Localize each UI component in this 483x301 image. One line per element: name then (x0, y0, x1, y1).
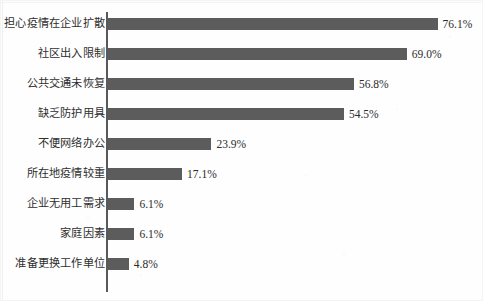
bar-value-label: 23.9% (216, 129, 246, 159)
bar-shape (108, 258, 129, 270)
bar-shape (108, 198, 134, 210)
bar-row: 不便网络办公 23.9% (1, 129, 483, 159)
bar-value-label: 56.8% (359, 69, 389, 99)
bar-value-label: 6.1% (139, 219, 163, 249)
bar-shape (108, 18, 438, 30)
bar-row: 企业无用工需求 6.1% (1, 189, 483, 219)
bar-row: 准备更换工作单位 4.8% (1, 249, 483, 279)
bar-category-label: 家庭因素 (60, 219, 105, 249)
bar-shape (108, 228, 134, 240)
bar-category-label: 担心疫情在企业扩散 (4, 9, 105, 39)
bar-shape (108, 48, 407, 60)
bar-row: 所在地疫情较重 17.1% (1, 159, 483, 189)
bar-value-label: 69.0% (412, 39, 442, 69)
bar-row: 公共交通未恢复 56.8% (1, 69, 483, 99)
bar-shape (108, 108, 344, 120)
bar-shape (108, 138, 211, 150)
bar-category-label: 缺乏防护用具 (38, 99, 105, 129)
bar-category-label: 企业无用工需求 (27, 189, 105, 219)
bar-row: 社区出入限制 69.0% (1, 39, 483, 69)
bar-category-label: 不便网络办公 (38, 129, 105, 159)
bar-category-label: 准备更换工作单位 (15, 249, 105, 279)
bar-value-label: 6.1% (139, 189, 163, 219)
bar-row: 担心疫情在企业扩散 76.1% (1, 9, 483, 39)
bar-shape (108, 78, 354, 90)
bar-category-label: 公共交通未恢复 (27, 69, 105, 99)
bar-value-label: 17.1% (187, 159, 217, 189)
plot-area: 担心疫情在企业扩散 76.1% 社区出入限制 69.0% 公共交通未恢复 56.… (1, 1, 483, 301)
bar-row: 缺乏防护用具 54.5% (1, 99, 483, 129)
bar-shape (108, 168, 182, 180)
bar-row: 家庭因素 6.1% (1, 219, 483, 249)
bar-value-label: 54.5% (349, 99, 379, 129)
bar-value-label: 76.1% (443, 9, 473, 39)
bar-chart-figure: 担心疫情在企业扩散 76.1% 社区出入限制 69.0% 公共交通未恢复 56.… (0, 0, 483, 301)
bar-category-label: 社区出入限制 (38, 39, 105, 69)
bar-value-label: 4.8% (134, 249, 158, 279)
bar-category-label: 所在地疫情较重 (27, 159, 105, 189)
